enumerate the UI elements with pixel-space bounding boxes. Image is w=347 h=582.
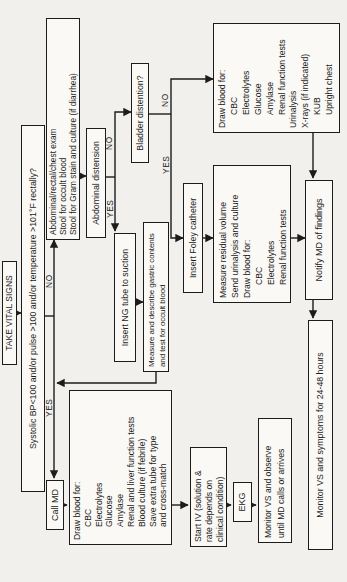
- node-insert-ng: Insert NG tube to suction: [114, 233, 136, 362]
- node-measure-residual: Measure residual volume Send urinalysis …: [213, 165, 291, 303]
- edge-distension-no-to-bladder: [115, 112, 131, 177]
- measure-residual-line: Renal function tests: [277, 170, 289, 298]
- node-draw-blood-yes: Draw blood for: CBC Electrolytes Glucose…: [69, 390, 172, 545]
- draw-blood-no-line: Draw blood for:: [217, 28, 229, 128]
- node-vitals-question: Systolic BP<100 and/or pulse >100 and/or…: [21, 125, 45, 492]
- insert-ng-label: Insert NG tube to suction: [120, 249, 131, 346]
- insert-foley-label: Insert Foley catheter: [188, 198, 199, 278]
- node-bladder-distention: Bladder distention?: [131, 63, 149, 163]
- node-call-md: Call MD: [46, 480, 64, 530]
- ekg-label: EKG: [237, 493, 248, 512]
- abdominal-exam-line: Abdominal/rectal/chest exam: [48, 23, 58, 235]
- measure-residual-line: Measure residual volume: [217, 170, 229, 298]
- start-iv-line: Start IV (solution &: [193, 452, 204, 542]
- take-vital-signs-label: TAKE VITAL SIGNS: [4, 275, 15, 350]
- node-measure-gastric: Measure and describe gastric contents an…: [143, 222, 169, 372]
- start-iv-line: clinical condition): [215, 452, 226, 542]
- draw-blood-no-line: Renal function tests: [277, 28, 289, 128]
- branch-label-vitals-yes: YES: [44, 398, 54, 417]
- measure-residual-line: Electrolytes: [265, 170, 277, 298]
- node-take-vital-signs: TAKE VITAL SIGNS: [2, 261, 17, 365]
- draw-blood-yes-line: and cross-match: [158, 395, 169, 540]
- flowchart-canvas: TAKE VITAL SIGNS Systolic BP<100 and/or …: [0, 0, 347, 582]
- node-start-iv: Start IV (solution & rate depends on cli…: [190, 447, 227, 547]
- vitals-question-label: Systolic BP<100 and/or pulse >100 and/or…: [28, 168, 39, 449]
- draw-blood-yes-line: Renal and liver function tests: [126, 395, 137, 540]
- edge-bladder-yes-to-foley: [171, 114, 183, 238]
- scanned-flowchart-page: TAKE VITAL SIGNS Systolic BP<100 and/or …: [0, 0, 347, 582]
- measure-gastric-line: and test for occult blood: [157, 227, 168, 367]
- branch-label-bladder-no: NO: [160, 93, 170, 107]
- node-abdominal-distension: Abdominal distension: [86, 128, 106, 238]
- draw-blood-yes-line: Glucose: [104, 395, 115, 540]
- draw-blood-no-line: CBC: [229, 28, 241, 128]
- draw-blood-yes-line: Electrolytes: [94, 395, 105, 540]
- measure-residual-line: CBC: [253, 170, 265, 298]
- node-monitor-symptoms: Monitor VS and symptoms for 24-48 hours: [308, 320, 333, 550]
- branch-label-distension-yes: YES: [105, 199, 115, 218]
- abdominal-distension-label: Abdominal distension: [91, 141, 102, 225]
- edge-bladder-no-to-drawblood: [171, 79, 213, 114]
- monitor-observe-line: Monitor VS and observe: [262, 423, 275, 538]
- node-notify-md: Notify MD of findings: [305, 180, 333, 300]
- draw-blood-yes-line: Draw blood for:: [72, 395, 83, 540]
- draw-blood-no-line: Amylase: [265, 28, 277, 128]
- branch-label-vitals-no: NO: [44, 274, 54, 288]
- monitor-symptoms-label: Monitor VS and symptoms for 24-48 hours: [315, 352, 326, 517]
- draw-blood-no-line: Electrolytes: [241, 28, 253, 128]
- node-ekg: EKG: [233, 482, 252, 522]
- draw-blood-yes-line: CBC: [83, 395, 94, 540]
- draw-blood-yes-line: Blood culture (if febrile): [137, 395, 148, 540]
- draw-blood-no-line: X-rays (if indicated): [300, 28, 312, 128]
- draw-blood-no-line: Upright chest: [324, 28, 336, 128]
- draw-blood-yes-line: Save extra tube for type: [148, 395, 159, 540]
- draw-blood-no-line: Glucose: [253, 28, 265, 128]
- measure-gastric-line: Measure and describe gastric contents: [146, 227, 157, 367]
- abdominal-exam-line: Stool for occult blood: [58, 23, 68, 235]
- abdominal-exam-line: Stool for Gram stain and culture (if dia…: [68, 23, 78, 235]
- start-iv-line: rate depends on: [204, 452, 215, 542]
- draw-blood-no-line: KUB: [312, 28, 324, 128]
- edge-gastric-merge-to-yes-line: [57, 372, 156, 383]
- node-monitor-observe: Monitor VS and observe until MD calls or…: [258, 418, 292, 543]
- draw-blood-no-line: Urinalysis: [288, 28, 300, 128]
- branch-label-bladder-yes: YES: [161, 155, 171, 174]
- bladder-distention-label: Bladder distention?: [135, 75, 146, 150]
- measure-residual-line: Draw blood for:: [241, 170, 253, 298]
- node-insert-foley: Insert Foley catheter: [183, 183, 203, 293]
- call-md-label: Call MD: [50, 489, 61, 521]
- branch-label-distension-no: NO: [104, 136, 114, 150]
- draw-blood-yes-line: Amylase: [115, 395, 126, 540]
- monitor-observe-line: until MD calls or arrives: [275, 423, 288, 538]
- node-draw-blood-no: Draw blood for: CBC Electrolytes Glucose…: [213, 23, 340, 133]
- node-abdominal-exam: Abdominal/rectal/chest exam Stool for oc…: [46, 18, 80, 240]
- measure-residual-line: Send urinalysis and culture: [229, 170, 241, 298]
- notify-md-label: Notify MD of findings: [314, 198, 325, 281]
